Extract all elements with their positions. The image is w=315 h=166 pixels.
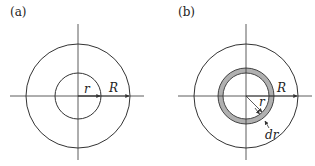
panel-a-label: (a) bbox=[10, 5, 27, 19]
ring-width-label: dr bbox=[265, 128, 280, 142]
figure: (a) r R (b) R r dr bbox=[0, 0, 315, 166]
outer-radius-label: R bbox=[276, 81, 286, 95]
dr-arrow-out bbox=[265, 121, 269, 128]
panel-a: (a) r R bbox=[10, 5, 144, 160]
panel-b-label: (b) bbox=[178, 5, 195, 19]
inner-radius-label: r bbox=[84, 82, 91, 96]
panel-b: (b) R r dr bbox=[178, 5, 312, 160]
inner-radius-label: r bbox=[259, 95, 266, 109]
outer-radius-label: R bbox=[108, 81, 118, 95]
